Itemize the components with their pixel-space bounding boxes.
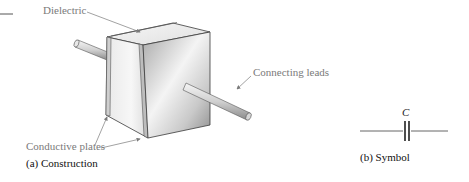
plates-callout-line-2 bbox=[101, 139, 140, 148]
conductive-plates-label: Conductive plates bbox=[26, 140, 105, 152]
capacitor-figure: Dielectric Connecting leads Conductive p… bbox=[0, 0, 469, 182]
leads-callout-line bbox=[237, 76, 251, 89]
capacitor-symbol bbox=[360, 121, 448, 141]
connecting-leads-label: Connecting leads bbox=[253, 66, 329, 78]
capacitor-body bbox=[106, 23, 210, 139]
dielectric-callout-line bbox=[87, 12, 140, 32]
caption-construction: (a) Construction bbox=[26, 157, 98, 169]
dielectric-label: Dielectric bbox=[43, 4, 86, 16]
symbol-letter-c: C bbox=[402, 106, 409, 118]
left-lead bbox=[73, 39, 110, 60]
caption-symbol: (b) Symbol bbox=[360, 151, 410, 163]
